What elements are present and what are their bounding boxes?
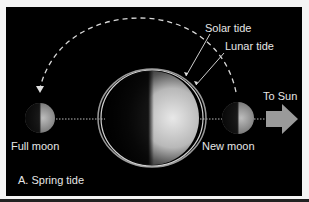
full-moon-icon xyxy=(25,103,55,133)
full-moon-label: Full moon xyxy=(11,141,59,152)
lunar-tide-label: Lunar tide xyxy=(225,41,274,52)
earth-icon xyxy=(98,69,206,167)
diagram-caption: A. Spring tide xyxy=(18,175,84,186)
solar-tide-label: Solar tide xyxy=(205,23,251,34)
solar-tide-leader xyxy=(186,34,210,76)
lunar-tide-leader xyxy=(196,53,224,85)
new-moon-icon xyxy=(222,102,254,134)
new-moon-label: New moon xyxy=(202,141,255,152)
to-sun-arrow-icon xyxy=(266,104,298,134)
to-sun-label: To Sun xyxy=(263,91,297,102)
orbit-arrowhead-icon xyxy=(36,86,44,93)
